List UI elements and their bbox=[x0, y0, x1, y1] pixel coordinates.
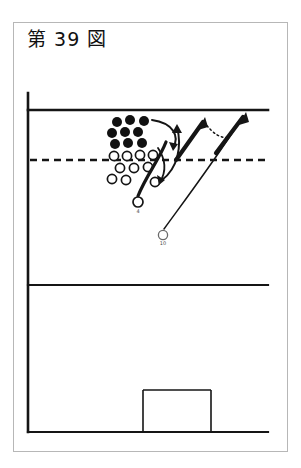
page-canvas: 第 39 図 bbox=[0, 0, 301, 468]
figure-title: 第 39 図 bbox=[27, 30, 107, 49]
figure-frame bbox=[13, 22, 288, 452]
